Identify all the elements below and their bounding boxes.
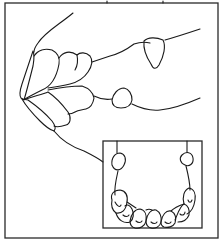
upper-gum-line [34, 13, 73, 52]
upper-jaw-back-line [165, 29, 200, 40]
inset-right-molar-bud [180, 153, 193, 166]
inset-arch-right-side [186, 166, 190, 190]
upper-premolar [48, 52, 92, 88]
upper-premolar-groove [75, 55, 78, 70]
inset-tooth-incisor-2 [146, 210, 161, 228]
lower-molar-bud [112, 88, 132, 108]
lower-incisor-front [22, 99, 55, 131]
lower-canine [26, 92, 70, 127]
inset-tooth-incisor-1-mark [136, 221, 142, 223]
inset-tooth-incisor-2-mark [151, 222, 157, 224]
inset-frame [103, 141, 202, 228]
inset-tooth-right-canine-mark [180, 212, 185, 215]
lower-gum-front [94, 96, 112, 99]
inset-tooth-left-premolar-mark [115, 202, 121, 206]
upper-incisor-front [20, 51, 34, 100]
lower-jaw-chin [54, 131, 103, 162]
lower-jaw-back-line [132, 98, 200, 110]
upper-gum-back [92, 42, 150, 62]
inset-tooth-left-premolar [111, 190, 127, 213]
inset-tooth-incisor-3 [161, 211, 176, 227]
occlusal-arch-inset [103, 141, 202, 228]
lateral-jaw-view [20, 13, 200, 162]
inset-tooth-left-canine-mark [123, 215, 129, 217]
teeth-diagram-svg [0, 0, 219, 251]
dental-illustration [0, 0, 219, 251]
inset-tooth-incisor-3-mark [165, 222, 171, 224]
upper-canine [25, 49, 59, 99]
inset-tooth-right-premolar-mark [188, 200, 192, 202]
inset-left-molar-bud [112, 153, 126, 170]
lower-premolar [48, 86, 94, 114]
